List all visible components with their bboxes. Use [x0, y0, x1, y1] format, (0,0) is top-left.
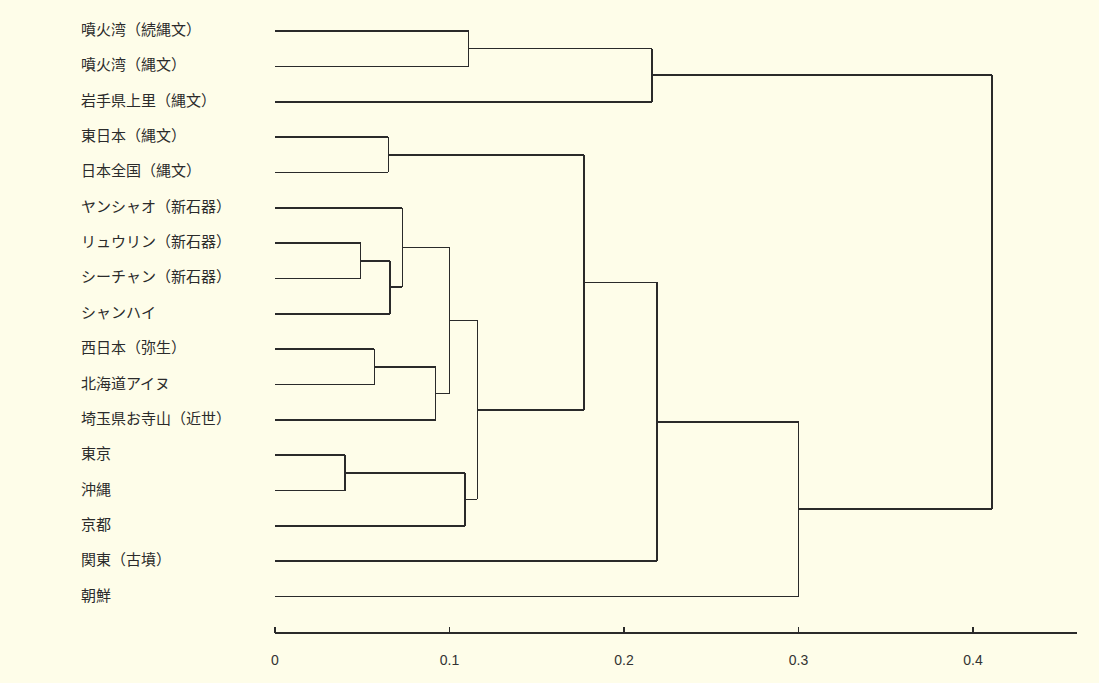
leaf-label: リュウリン（新石器） [81, 233, 231, 251]
leaf-label: シーチャン（新石器） [81, 268, 231, 286]
x-tick-label: 0.1 [440, 652, 459, 668]
leaf-label: 京都 [81, 516, 111, 534]
leaf-label: シャンハイ [81, 304, 156, 322]
leaf-label: 東日本（縄文） [81, 127, 186, 145]
leaf-label: 北海道アイヌ [81, 375, 170, 393]
leaf-label: 関東（古墳） [81, 551, 171, 569]
leaf-label: 埼玉県お寺山（近世） [81, 410, 231, 428]
leaf-label: 岩手県上里（縄文） [81, 92, 216, 110]
leaf-label: 沖縄 [81, 481, 111, 499]
dendrogram-branches [275, 31, 992, 597]
leaf-label: 噴火湾（続縄文） [81, 21, 201, 39]
leaf-label: 朝鮮 [81, 587, 111, 605]
x-tick-label: 0.2 [614, 652, 633, 668]
x-tick-label: 0.4 [963, 652, 982, 668]
leaf-label: 噴火湾（縄文） [81, 56, 186, 74]
leaf-label: ヤンシャオ（新石器） [81, 198, 231, 216]
x-axis [275, 627, 1077, 633]
leaf-label: 東京 [81, 445, 111, 463]
leaf-label: 日本全国（縄文） [81, 162, 201, 180]
x-tick-label: 0.3 [789, 652, 808, 668]
leaf-label: 西日本（弥生） [81, 339, 186, 357]
x-tick-label: 0 [271, 652, 279, 668]
